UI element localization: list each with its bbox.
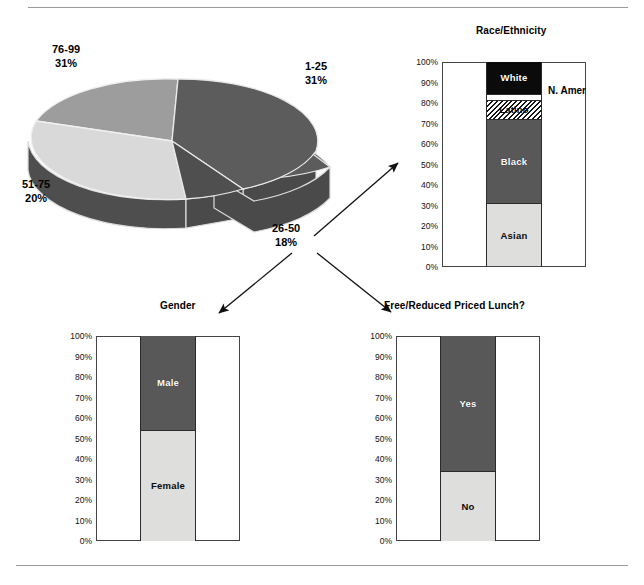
chart-free-reduced-lunch: Free/Reduced Priced Lunch? 100% 90% 80% … <box>352 300 622 560</box>
segment-latino-label: Latino <box>499 104 529 115</box>
segment-yes-label: Yes <box>460 398 477 409</box>
segment-n-amer-label: N. Amer <box>548 85 586 96</box>
chart-title-lunch: Free/Reduced Priced Lunch? <box>384 300 525 311</box>
gender-ytick-100: 100% <box>52 332 92 341</box>
pie-label-26-50-percent: 18% <box>275 236 297 248</box>
segment-asian: Asian <box>487 204 541 267</box>
ytick-70: 70% <box>398 120 438 129</box>
gender-ytick-60: 60% <box>52 414 92 423</box>
pie-chart: 76-99 31% 1-25 31% 51-75 20% 26-50 18% <box>0 38 380 258</box>
lunch-ytick-40: 40% <box>352 455 392 464</box>
lunch-ytick-70: 70% <box>352 394 392 403</box>
ytick-10: 10% <box>398 243 438 252</box>
segment-black-label: Black <box>501 156 527 167</box>
segment-no: No <box>441 472 495 541</box>
lunch-ytick-10: 10% <box>352 517 392 526</box>
chart-race-ethnicity: Race/Ethnicity 100% 90% 80% 70% 60% 50% … <box>398 25 638 285</box>
gender-ytick-90: 90% <box>52 353 92 362</box>
lunch-ytick-80: 80% <box>352 373 392 382</box>
segment-female-label: Female <box>151 480 185 491</box>
ytick-90: 90% <box>398 79 438 88</box>
bottom-divider-rule <box>16 565 628 566</box>
ytick-100: 100% <box>398 58 438 67</box>
ytick-0: 0% <box>398 263 438 272</box>
chart-title-gender: Gender <box>160 300 196 311</box>
gender-ytick-10: 10% <box>52 517 92 526</box>
pie-label-26-50-name: 26-50 <box>272 222 300 234</box>
gender-ytick-40: 40% <box>52 455 92 464</box>
gender-ytick-20: 20% <box>52 496 92 505</box>
lunch-ytick-20: 20% <box>352 496 392 505</box>
gender-ytick-70: 70% <box>52 394 92 403</box>
segment-latino: Latino <box>487 101 541 119</box>
pie-label-51-75: 51-75 20% <box>22 178 50 206</box>
ytick-20: 20% <box>398 222 438 231</box>
lunch-ytick-100: 100% <box>352 332 392 341</box>
ytick-30: 30% <box>398 202 438 211</box>
ytick-80: 80% <box>398 99 438 108</box>
segment-black: Black <box>487 120 541 203</box>
lunch-ytick-30: 30% <box>352 476 392 485</box>
lunch-ytick-90: 90% <box>352 353 392 362</box>
pie-label-51-75-name: 51-75 <box>22 178 50 190</box>
pie-label-1-25: 1-25 31% <box>305 60 327 88</box>
pie-label-76-99-name: 76-99 <box>52 43 80 55</box>
ytick-60: 60% <box>398 140 438 149</box>
gender-ytick-0: 0% <box>52 537 92 546</box>
pie-label-26-50: 26-50 18% <box>272 222 300 250</box>
gender-ytick-50: 50% <box>52 435 92 444</box>
pie-label-76-99-percent: 31% <box>55 57 77 69</box>
gender-ytick-80: 80% <box>52 373 92 382</box>
gender-ytick-30: 30% <box>52 476 92 485</box>
stacked-bar-race: White Latino Black Asian <box>486 62 542 267</box>
segment-male: Male <box>141 336 195 430</box>
ytick-50: 50% <box>398 161 438 170</box>
segment-white-label: White <box>501 72 528 83</box>
lunch-ytick-50: 50% <box>352 435 392 444</box>
pie-label-51-75-percent: 20% <box>25 192 47 204</box>
chart-gender: Gender 100% 90% 80% 70% 60% 50% 40% 30% … <box>52 300 282 560</box>
segment-female: Female <box>141 431 195 541</box>
pie-label-76-99: 76-99 31% <box>52 43 80 71</box>
figure-canvas: 76-99 31% 1-25 31% 51-75 20% 26-50 18% <box>0 0 644 585</box>
lunch-ytick-60: 60% <box>352 414 392 423</box>
chart-title-race: Race/Ethnicity <box>476 25 546 36</box>
segment-white: White <box>487 62 541 95</box>
top-divider-rule <box>28 7 628 8</box>
stacked-bar-gender: Male Female <box>140 336 196 541</box>
segment-no-label: No <box>461 501 474 512</box>
pie-label-1-25-percent: 31% <box>305 74 327 86</box>
segment-male-label: Male <box>157 377 179 388</box>
segment-asian-label: Asian <box>501 230 528 241</box>
segment-yes: Yes <box>441 336 495 471</box>
stacked-bar-lunch: Yes No <box>440 336 496 541</box>
ytick-40: 40% <box>398 181 438 190</box>
lunch-ytick-0: 0% <box>352 537 392 546</box>
pie-label-1-25-name: 1-25 <box>305 60 327 72</box>
